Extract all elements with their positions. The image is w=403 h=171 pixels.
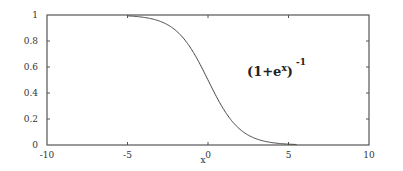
y-tick-label: 0 — [32, 140, 38, 150]
tick-labels: -10-5051000.20.40.60.81 — [24, 10, 375, 160]
x-tick-label: 0 — [205, 150, 211, 160]
x-axis-label: x — [200, 155, 205, 165]
annotation-outer-exponent: -1 — [296, 57, 306, 67]
y-tick-label: 0.6 — [24, 62, 39, 72]
sigmoid-chart: -10-5051000.20.40.60.81 x (1+ex)-1 — [0, 0, 403, 171]
y-tick-label: 0.8 — [24, 36, 39, 46]
function-annotation: (1+ex)-1 — [247, 57, 306, 79]
x-tick-label: -5 — [123, 150, 132, 160]
x-tick-label: 10 — [363, 150, 375, 160]
y-tick-label: 1 — [32, 10, 38, 20]
sigmoid-curve — [128, 16, 297, 145]
y-tick-label: 0.2 — [24, 114, 38, 124]
x-tick-label: -10 — [40, 150, 55, 160]
annotation-base: (1+e — [247, 64, 281, 79]
annotation-close-paren: ) — [287, 64, 293, 79]
svg-text:(1+ex)-1: (1+ex)-1 — [247, 57, 306, 79]
x-tick-label: 5 — [286, 150, 292, 160]
y-tick-label: 0.4 — [24, 88, 39, 98]
